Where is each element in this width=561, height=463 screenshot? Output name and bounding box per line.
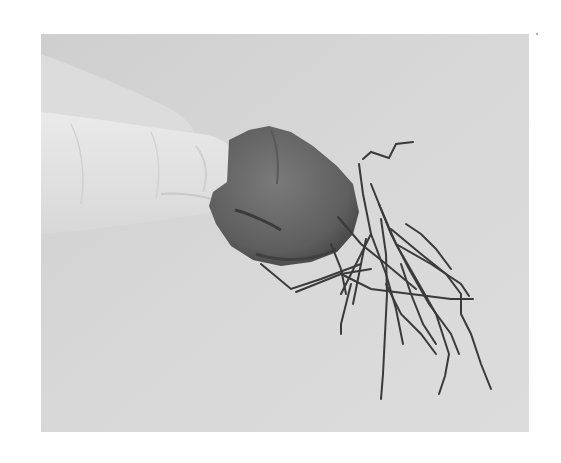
lodestone-photo	[41, 34, 529, 432]
speck	[536, 33, 538, 35]
photograph	[41, 34, 529, 432]
